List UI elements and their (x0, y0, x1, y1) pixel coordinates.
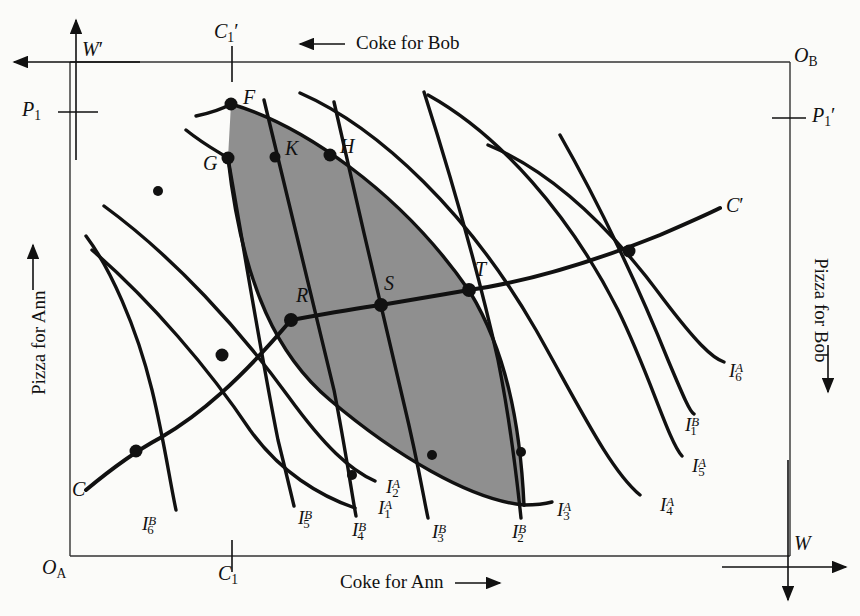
point-G-dot (222, 152, 235, 165)
ic-sub: 4 (357, 528, 363, 543)
ic-sub: 4 (666, 503, 672, 518)
tick-label-c1-prime: C1′ (214, 20, 239, 46)
origin-ann: OA (42, 556, 66, 582)
ic-sub: 2 (517, 530, 523, 545)
curve-label-I5A: IA5 (692, 455, 705, 480)
origin-ann-base: O (42, 556, 56, 578)
label-w-prime-base: W (82, 38, 99, 60)
curve-label-I2B: IB2 (512, 521, 524, 546)
point-label-S: S (384, 272, 394, 295)
ic-sub: 5 (698, 464, 704, 479)
tick-c1p-mark: ′ (234, 20, 238, 42)
tick-c1-sub: 1 (231, 572, 238, 587)
axis-label-pizza-for-bob: Pizza for Bob (810, 258, 832, 362)
tick-p1p-mark: ′ (831, 104, 835, 126)
ic-sub: 3 (563, 508, 569, 523)
contract-curve-label-C: C (72, 478, 85, 501)
point-label-F: F (243, 86, 255, 109)
label-w-prime: W′ (82, 38, 103, 61)
tick-c1p-base: C (214, 20, 227, 42)
contract-curve-cprime-base: C (726, 194, 739, 216)
origin-bob-sub: B (808, 54, 817, 69)
origin-bob: OB (794, 44, 818, 70)
tick-label-c1: C1 (218, 562, 238, 588)
ic-sub: 6 (147, 522, 153, 537)
curve-label-I1B: IB1 (685, 414, 697, 439)
tick-p1p-base: P (812, 104, 824, 126)
contract-curve-cprime-mark: ′ (739, 194, 743, 216)
ic-sub: 2 (392, 485, 398, 500)
edgeworth-box-figure: Coke for Bob Coke for Ann Pizza for Ann … (0, 0, 860, 616)
w-prime-axes (14, 20, 140, 160)
ic-sub: 3 (437, 530, 443, 545)
tick-label-p1: P1 (22, 98, 41, 124)
curve-label-I4B: IB4 (352, 519, 364, 544)
contract-curve-label-C-prime: C′ (726, 194, 744, 217)
tick-c1-base: C (218, 562, 231, 584)
curve-label-I5B: IB5 (298, 507, 310, 532)
origin-ann-sub: A (56, 566, 66, 581)
curve-label-I4A: IA4 (660, 494, 673, 519)
point-label-H: H (340, 135, 354, 158)
point-S-dot (374, 298, 388, 312)
tick-p1-base: P (22, 98, 34, 120)
label-w: W (794, 532, 811, 555)
point-K-dot (270, 152, 281, 163)
figure-canvas (0, 0, 860, 616)
tick-p1-sub: 1 (34, 108, 41, 123)
label-w-prime-mark: ′ (99, 38, 103, 60)
ic-sub: 1 (384, 506, 390, 521)
axis-label-coke-for-ann: Coke for Ann (340, 571, 443, 593)
point-label-G: G (203, 152, 217, 175)
point-H-dot (324, 149, 337, 162)
tick-label-p1-prime: P1′ (812, 104, 835, 130)
ic-sub: 1 (690, 423, 696, 438)
w-axes (722, 460, 846, 600)
curve-label-I3B: IB3 (432, 521, 444, 546)
axis-label-pizza-for-ann: Pizza for Ann (28, 291, 50, 395)
axis-label-coke-for-bob: Coke for Bob (356, 32, 459, 54)
point-label-T: T (475, 258, 486, 281)
curve-label-I2A: IA2 (386, 476, 399, 501)
point-label-K: K (285, 137, 298, 160)
point-T-dot (462, 283, 476, 297)
origin-bob-base: O (794, 44, 808, 66)
ic-sub: 6 (735, 369, 741, 384)
curve-label-I6B: IB6 (142, 513, 154, 538)
curve-label-I6A: IA6 (729, 360, 742, 385)
point-label-R: R (296, 284, 308, 307)
ic-sub: 5 (303, 516, 309, 531)
point-F-dot (225, 98, 238, 111)
tick-p1p-sub: 1 (824, 114, 831, 129)
curve-label-I3A: IA3 (557, 499, 570, 524)
point-R-dot (284, 313, 298, 327)
